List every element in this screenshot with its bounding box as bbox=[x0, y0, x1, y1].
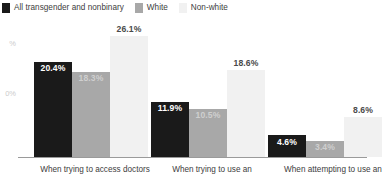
bar-white[interactable] bbox=[306, 141, 344, 157]
bar-non-white[interactable] bbox=[227, 70, 265, 157]
bar-wrapper: 18.6% bbox=[227, 18, 265, 157]
bar-wrapper: 3.4% bbox=[306, 18, 344, 157]
bar-non-white[interactable] bbox=[344, 117, 382, 157]
bar-all-transgender-and-nonbinary[interactable] bbox=[34, 62, 72, 157]
bar-value-label: 18.6% bbox=[227, 58, 265, 68]
bar-wrapper: 11.9% bbox=[151, 18, 189, 157]
legend-label: Non-white bbox=[191, 3, 228, 13]
bar-white[interactable] bbox=[72, 72, 110, 157]
bar-wrapper: 4.6% bbox=[268, 18, 306, 157]
bar-all-transgender-and-nonbinary[interactable] bbox=[151, 102, 189, 157]
bar-wrapper: 26.1% bbox=[110, 18, 148, 157]
bar-value-label: 26.1% bbox=[110, 24, 148, 34]
legend-item-non-white[interactable]: Non-white bbox=[179, 3, 228, 13]
legend-item-white[interactable]: White bbox=[135, 3, 168, 13]
legend-swatch-icon bbox=[135, 3, 143, 13]
bar-wrapper: 20.4% bbox=[34, 18, 72, 157]
legend-label: All transgender and nonbinary bbox=[14, 3, 124, 13]
legend-swatch-icon bbox=[179, 3, 187, 13]
bar-non-white[interactable] bbox=[110, 36, 148, 157]
bar-wrapper: 8.6% bbox=[344, 18, 382, 157]
x-axis-baseline bbox=[18, 157, 367, 158]
chart-legend: All transgender and nonbinary White Non-… bbox=[2, 2, 239, 14]
plot-area: % 0% 20.4% 18.3% 26.1% bbox=[18, 18, 367, 158]
bar-white[interactable] bbox=[189, 109, 227, 157]
legend-swatch-icon bbox=[2, 3, 10, 13]
bar-wrapper: 10.5% bbox=[189, 18, 227, 157]
legend-item-all-transgender-and-nonbinary[interactable]: All transgender and nonbinary bbox=[2, 3, 124, 13]
bar-wrapper: 18.3% bbox=[72, 18, 110, 157]
x-axis-label-when-attempting-to-use-an: When attempting to use an bbox=[253, 165, 386, 175]
bar-all-transgender-and-nonbinary[interactable] bbox=[268, 135, 306, 157]
bar-value-label: 8.6% bbox=[344, 105, 382, 115]
y-axis-tick-label: 0% bbox=[0, 90, 16, 98]
legend-label: White bbox=[147, 3, 168, 13]
y-axis-tick-label: % bbox=[0, 40, 16, 48]
